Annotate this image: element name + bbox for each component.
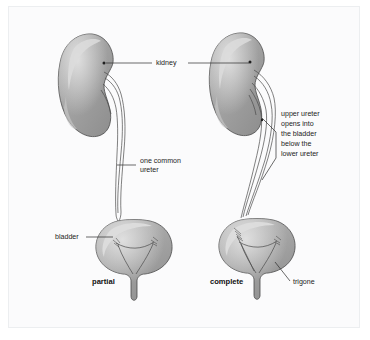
- note-leader-lower: [262, 158, 276, 180]
- left-kidney-marker: [103, 62, 106, 65]
- right-bladder: [219, 219, 295, 300]
- left-bladder: [96, 220, 172, 301]
- left-kidney: [58, 34, 113, 137]
- anatomy-illustration: kidney one common ureter bladder upper u…: [0, 0, 370, 340]
- note-line-2: opens into: [281, 120, 314, 128]
- note-line-1: upper ureter: [281, 110, 320, 118]
- label-bladder: bladder: [55, 233, 79, 241]
- note-line-3: the bladder: [281, 130, 317, 138]
- diagram-stage: kidney one common ureter bladder upper u…: [0, 0, 370, 340]
- right-kidney: [209, 33, 264, 136]
- label-kidney: kidney: [156, 59, 177, 67]
- label-trigone: trigone: [293, 278, 315, 286]
- note-leader-upper: [262, 118, 276, 132]
- caption-complete: complete: [210, 277, 243, 286]
- label-one-common-ureter-line2: ureter: [140, 166, 159, 174]
- caption-partial: partial: [92, 277, 115, 286]
- note-line-4: below the: [281, 140, 311, 148]
- note-line-5: lower ureter: [281, 150, 319, 158]
- label-one-common-ureter-line1: one common: [140, 157, 181, 165]
